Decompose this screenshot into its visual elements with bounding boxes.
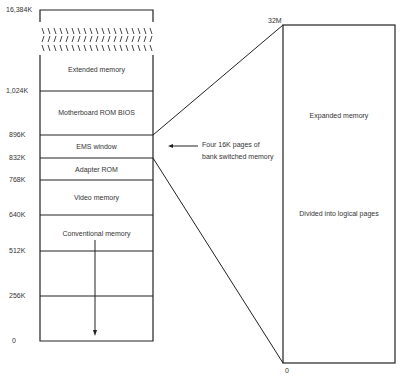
memory-map-lines xyxy=(0,0,401,381)
region-video-memory: Video memory xyxy=(40,194,153,201)
annotation-line1: Four 16K pages of xyxy=(202,141,260,148)
region-motherboard-rom-bios: Motherboard ROM BIOS xyxy=(40,109,153,116)
expanded-top-label: 32M xyxy=(268,17,282,24)
axis-label-16384k: 16,384K xyxy=(6,6,32,13)
axis-label-896k: 896K xyxy=(9,131,25,138)
region-conventional-memory: Conventional memory xyxy=(40,230,153,237)
axis-label-512k: 512K xyxy=(9,247,25,254)
expanded-bottom-label: 0 xyxy=(285,367,289,374)
expanded-memory-subtitle: Divided into logical pages xyxy=(283,210,395,217)
region-adapter-rom: Adapter ROM xyxy=(40,166,153,173)
expanded-memory-title: Expanded memory xyxy=(283,112,395,119)
break-zigzag-icon xyxy=(42,28,152,51)
region-extended-memory: Extended memory xyxy=(40,66,153,73)
axis-label-640k: 640K xyxy=(9,211,25,218)
axis-label-1024k: 1,024K xyxy=(6,87,28,94)
annotation-line2: bank switched memory xyxy=(202,153,274,160)
axis-label-768k: 768K xyxy=(9,176,25,183)
axis-label-832k: 832K xyxy=(9,154,25,161)
region-ems-window: EMS window xyxy=(40,143,153,150)
axis-label-0: 0 xyxy=(12,337,16,344)
axis-label-256k: 256K xyxy=(9,292,25,299)
